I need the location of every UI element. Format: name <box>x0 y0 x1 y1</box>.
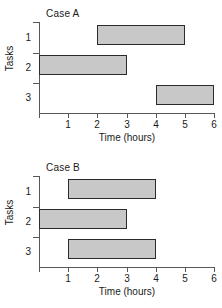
gantt-bar-case-a-task-2 <box>39 55 127 75</box>
x-axis-label-6-case-a: 6 <box>207 120 221 130</box>
x-axis-label-1-case-a: 1 <box>61 120 75 130</box>
x-axis-label-4-case-b: 4 <box>149 274 163 284</box>
chart-panel-case-b: Case B Tasks 1 2 3 1 2 3 4 5 6 Time (hou… <box>0 154 222 308</box>
gantt-chart-figure: Case A Tasks 1 2 3 1 2 3 4 5 6 Time (hou… <box>0 0 222 308</box>
x-axis-label-3-case-b: 3 <box>120 274 134 284</box>
x-axis-label-4-case-a: 4 <box>149 120 163 130</box>
gantt-bar-case-a-task-3 <box>156 85 214 105</box>
x-axis-label-2-case-a: 2 <box>90 120 104 130</box>
y-axis-tick-2-case-a <box>33 83 39 84</box>
x-axis-label-1-case-b: 1 <box>61 274 75 284</box>
x-axis-tick-0-case-a <box>39 109 40 118</box>
y-axis-tick-top-case-a <box>33 22 39 23</box>
chart-panel-case-a: Case A Tasks 1 2 3 1 2 3 4 5 6 Time (hou… <box>0 0 222 154</box>
y-axis-label-task-2-case-b: 2 <box>20 217 31 227</box>
x-axis-label-5-case-a: 5 <box>178 120 192 130</box>
x-axis-tick-4-case-b <box>156 267 157 272</box>
x-axis-tick-4-case-a <box>156 113 157 118</box>
x-axis-tick-0-case-b <box>39 263 40 272</box>
y-axis-tick-1-case-b <box>33 207 39 208</box>
gantt-bar-case-a-task-1 <box>97 25 185 45</box>
x-axis-tick-5-case-a <box>185 113 186 118</box>
x-axis-label-5-case-b: 5 <box>178 274 192 284</box>
gantt-bar-case-b-task-1 <box>68 179 156 199</box>
x-axis-tick-3-case-a <box>127 113 128 118</box>
x-axis-tick-6-case-b <box>214 267 215 272</box>
y-axis-label-task-1-case-a: 1 <box>20 33 31 43</box>
x-axis-label-2-case-b: 2 <box>90 274 104 284</box>
y-axis-tick-1-case-a <box>33 53 39 54</box>
y-axis-tick-2-case-b <box>33 237 39 238</box>
x-axis-label-6-case-b: 6 <box>207 274 221 284</box>
y-axis-label-task-3-case-b: 3 <box>20 247 31 257</box>
gantt-bar-case-b-task-3 <box>68 239 156 259</box>
x-axis-tick-5-case-b <box>185 267 186 272</box>
x-axis-tick-2-case-a <box>97 113 98 118</box>
x-axis-tick-2-case-b <box>97 267 98 272</box>
y-axis-label-task-1-case-b: 1 <box>20 187 31 197</box>
x-axis-label-3-case-a: 3 <box>120 120 134 130</box>
x-axis-tick-3-case-b <box>127 267 128 272</box>
x-axis-tick-1-case-a <box>68 113 69 118</box>
y-axis-title-case-b: Tasks <box>4 193 15 233</box>
x-axis-title-case-a: Time (hours) <box>39 132 215 143</box>
gantt-bar-case-b-task-2 <box>39 209 127 229</box>
chart-title-case-b: Case B <box>46 162 80 173</box>
x-axis-tick-1-case-b <box>68 267 69 272</box>
y-axis-label-task-2-case-a: 2 <box>20 63 31 73</box>
y-axis-label-task-3-case-a: 3 <box>20 93 31 103</box>
x-axis-title-case-b: Time (hours) <box>39 286 215 297</box>
chart-title-case-a: Case A <box>46 8 79 19</box>
x-axis-tick-6-case-a <box>214 113 215 118</box>
y-axis-title-case-a: Tasks <box>4 39 15 79</box>
y-axis-tick-top-case-b <box>33 176 39 177</box>
